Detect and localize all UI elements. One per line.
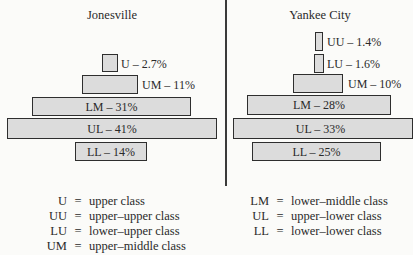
legend-desc: lower–upper class — [89, 224, 180, 239]
legend-abbr: LU — [40, 224, 67, 239]
legend-right: LM = lower–middle class UL = upper–lower… — [245, 194, 388, 239]
bar-yankee-uu — [315, 32, 323, 51]
legend-abbr: UL — [245, 209, 269, 224]
legend-equals: = — [67, 224, 89, 239]
legend-desc: upper–lower class — [291, 209, 382, 224]
bar-yankee-lu — [314, 54, 324, 73]
bar-jonesville-lm: LM – 31% — [32, 97, 191, 116]
jonesville-title: Jonesville — [62, 8, 162, 23]
bar-jonesville-um — [82, 75, 138, 94]
legend-abbr: LM — [245, 194, 269, 209]
legend-item: UU = upper–upper class — [40, 209, 186, 224]
legend-abbr: U — [40, 194, 67, 209]
label-yankee-lm: LM – 28% — [293, 99, 345, 111]
legend-equals: = — [269, 209, 291, 224]
label-yankee-ll: LL – 25% — [292, 146, 340, 158]
label-yankee-ul: UL – 33% — [296, 123, 346, 135]
label-jonesville-um: UM – 11% — [142, 79, 195, 91]
legend-equals: = — [269, 224, 291, 239]
bar-jonesville-u — [102, 54, 118, 72]
legend-equals: = — [67, 239, 89, 254]
legend-item: UL = upper–lower class — [245, 209, 388, 224]
label-yankee-uu: UU – 1.4% — [327, 36, 381, 48]
bar-yankee-um — [293, 74, 343, 93]
legend-desc: upper–upper class — [89, 209, 180, 224]
bar-yankee-ul: UL – 33% — [233, 118, 413, 139]
label-jonesville-lm: LM – 31% — [86, 101, 138, 113]
legend-desc: upper class — [89, 194, 145, 209]
panel-divider — [225, 0, 227, 186]
legend-item: U = upper class — [40, 194, 186, 209]
legend-desc: lower–middle class — [291, 194, 388, 209]
label-jonesville-ul: UL – 41% — [87, 123, 137, 135]
legend-abbr: LL — [245, 224, 269, 239]
legend-abbr: UM — [40, 239, 67, 254]
bar-yankee-lm: LM – 28% — [247, 95, 391, 115]
legend-equals: = — [67, 209, 89, 224]
yankee-city-title: Yankee City — [270, 8, 370, 23]
legend-item: LU = lower–upper class — [40, 224, 186, 239]
legend-item: UM = upper–middle class — [40, 239, 186, 254]
legend-equals: = — [269, 194, 291, 209]
label-jonesville-u: U – 2.7% — [121, 58, 167, 70]
legend-left: U = upper class UU = upper–upper class L… — [40, 194, 186, 254]
label-yankee-um: UM – 10% — [348, 78, 401, 90]
legend-item: LM = lower–middle class — [245, 194, 388, 209]
legend-item: LL = lower–lower class — [245, 224, 388, 239]
bar-yankee-ll: LL – 25% — [252, 142, 381, 161]
legend-desc: lower–lower class — [291, 224, 382, 239]
legend-equals: = — [67, 194, 89, 209]
bar-jonesville-ll: LL – 14% — [75, 142, 147, 161]
bar-jonesville-ul: UL – 41% — [7, 118, 217, 139]
label-yankee-lu: LU – 1.6% — [327, 58, 380, 70]
label-jonesville-ll: LL – 14% — [87, 146, 135, 158]
legend-abbr: UU — [40, 209, 67, 224]
legend-desc: upper–middle class — [89, 239, 186, 254]
